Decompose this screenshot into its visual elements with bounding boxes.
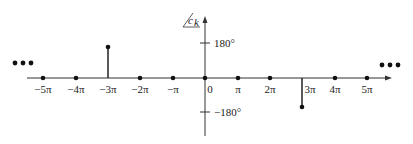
svg-text:5π: 5π — [361, 83, 373, 95]
y-tick-label-180: 180° — [214, 37, 235, 49]
y-axis-arrow-icon — [203, 16, 208, 23]
svg-text:3π: 3π — [304, 83, 316, 95]
stem-plot: 180° −180° c k −5π −4π −3π −2π −π 0 π 2π… — [0, 0, 413, 144]
svg-text:−5π: −5π — [34, 83, 52, 95]
svg-text:c: c — [188, 14, 193, 26]
svg-text:2π: 2π — [264, 83, 276, 95]
y-axis-label: c k — [183, 13, 200, 28]
svg-text:−4π: −4π — [67, 83, 85, 95]
right-ellipsis-icon — [380, 63, 401, 68]
x-tick-labels: −5π −4π −3π −2π −π 0 π 2π 3π 4π 5π — [34, 83, 373, 95]
svg-text:π: π — [235, 83, 241, 95]
svg-text:−π: −π — [167, 83, 179, 95]
svg-text:−3π: −3π — [99, 83, 117, 95]
y-tick-label-neg180: −180° — [214, 106, 241, 118]
svg-text:0: 0 — [207, 83, 213, 95]
x-axis-arrow-icon — [385, 76, 392, 81]
svg-text:k: k — [194, 16, 200, 28]
svg-text:−2π: −2π — [131, 83, 149, 95]
svg-text:4π: 4π — [329, 83, 341, 95]
left-ellipsis-icon — [13, 61, 34, 66]
